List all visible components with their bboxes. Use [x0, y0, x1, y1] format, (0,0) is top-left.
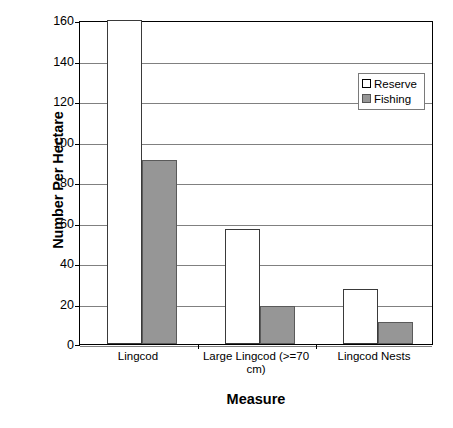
bar-fishing-lingcod-nests[interactable] [378, 322, 413, 344]
x-axis-title: Measure [79, 391, 433, 407]
bar-reserve-lingcod[interactable] [107, 20, 142, 344]
x-axis-tick-labels: Lingcod Large Lingcod (>=70 cm) Lingcod … [79, 350, 433, 386]
y-tick-label: 160 [32, 15, 74, 27]
legend-item-reserve[interactable]: Reserve [362, 76, 421, 91]
y-tick-label: 40 [32, 258, 74, 270]
y-tick-label: 80 [32, 177, 74, 189]
bar-fishing-large-lingcod[interactable] [260, 306, 295, 344]
x-tick-label-lingcod: Lingcod [79, 350, 197, 363]
legend-item-fishing[interactable]: Fishing [362, 91, 421, 106]
x-category-separator [198, 344, 199, 349]
y-tick-label: 60 [32, 218, 74, 230]
bar-reserve-lingcod-nests[interactable] [343, 289, 378, 344]
gridline [80, 346, 432, 347]
x-tick-label-large-lingcod: Large Lingcod (>=70 cm) [197, 350, 315, 376]
y-tickmark [75, 345, 80, 346]
y-tick-label: 100 [32, 137, 74, 149]
bar-reserve-large-lingcod[interactable] [225, 229, 260, 344]
x-category-separator [316, 344, 317, 349]
legend-label-fishing: Fishing [374, 93, 411, 105]
plot-area: Reserve Fishing [79, 21, 433, 345]
legend-swatch-fishing-icon [362, 94, 371, 103]
legend-swatch-reserve-icon [362, 79, 371, 88]
y-tick-label: 0 [32, 339, 74, 351]
y-axis-tick-labels: 160 140 120 100 80 60 40 20 0 [28, 0, 74, 428]
y-tick-label: 140 [32, 56, 74, 68]
bar-fishing-lingcod[interactable] [142, 160, 177, 344]
bar-chart: Number Per Hectare 160 140 120 100 80 60… [0, 0, 453, 428]
x-tick-label-lingcod-nests: Lingcod Nests [315, 350, 433, 363]
y-tick-label: 20 [32, 299, 74, 311]
legend: Reserve Fishing [358, 73, 425, 110]
figure-caption [6, 418, 446, 427]
legend-label-reserve: Reserve [374, 78, 417, 90]
y-tick-label: 120 [32, 96, 74, 108]
bars-layer [80, 22, 432, 344]
